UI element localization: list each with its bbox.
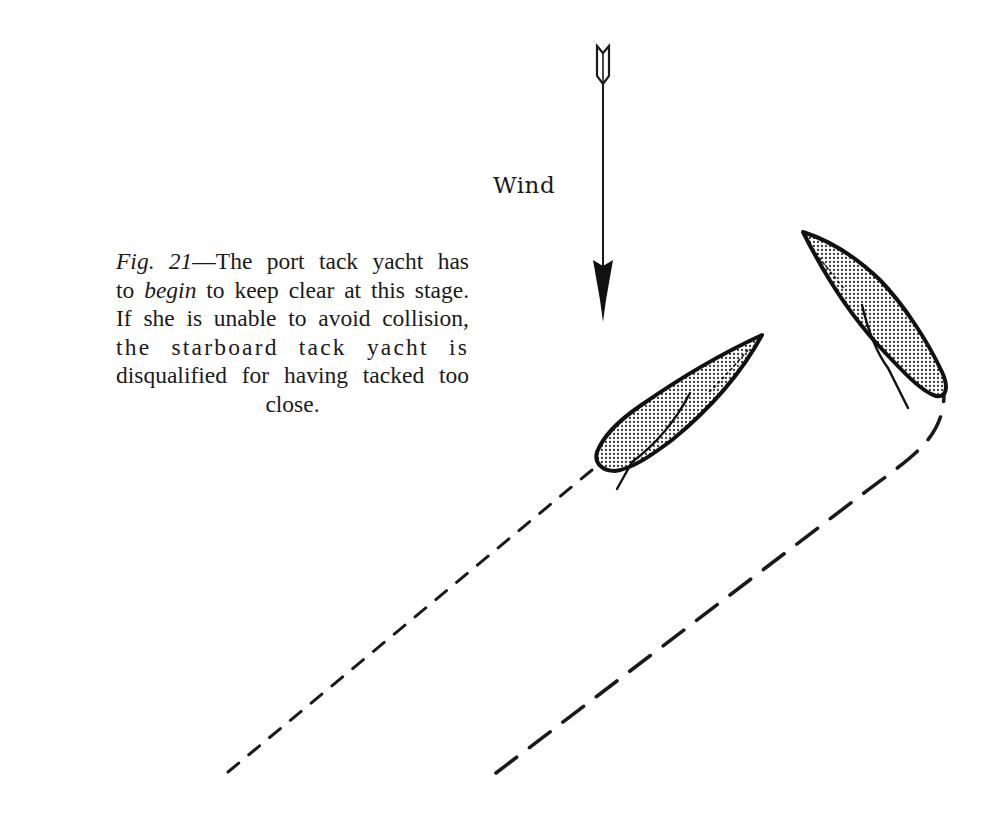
caption-line-2: to begin to keep clear at this stage.	[116, 276, 469, 305]
caption-line-5: disqualified for having tacked too	[116, 361, 469, 390]
port-tack-yacht	[596, 335, 762, 489]
caption-line-1: Fig. 21—The port tack yacht has	[116, 247, 469, 276]
caption-line-6: close.	[116, 390, 469, 419]
port-tack-track	[228, 470, 592, 772]
emphasis-begin: begin	[144, 277, 196, 303]
wind-label: Wind	[493, 172, 555, 198]
rules-diagram-figure: Wind Fig. 21—The port tack yacht has to …	[0, 0, 997, 816]
caption-line-4: the starboard tack yacht is	[116, 333, 469, 362]
figure-number: Fig. 21	[116, 248, 192, 274]
starboard-tack-track	[496, 395, 944, 773]
caption-line-3: If she is unable to avoid collision,	[116, 304, 469, 333]
figure-caption: Fig. 21—The port tack yacht has to begin…	[116, 247, 469, 419]
starboard-tack-yacht	[803, 232, 946, 408]
wind-arrow-icon	[593, 46, 613, 322]
